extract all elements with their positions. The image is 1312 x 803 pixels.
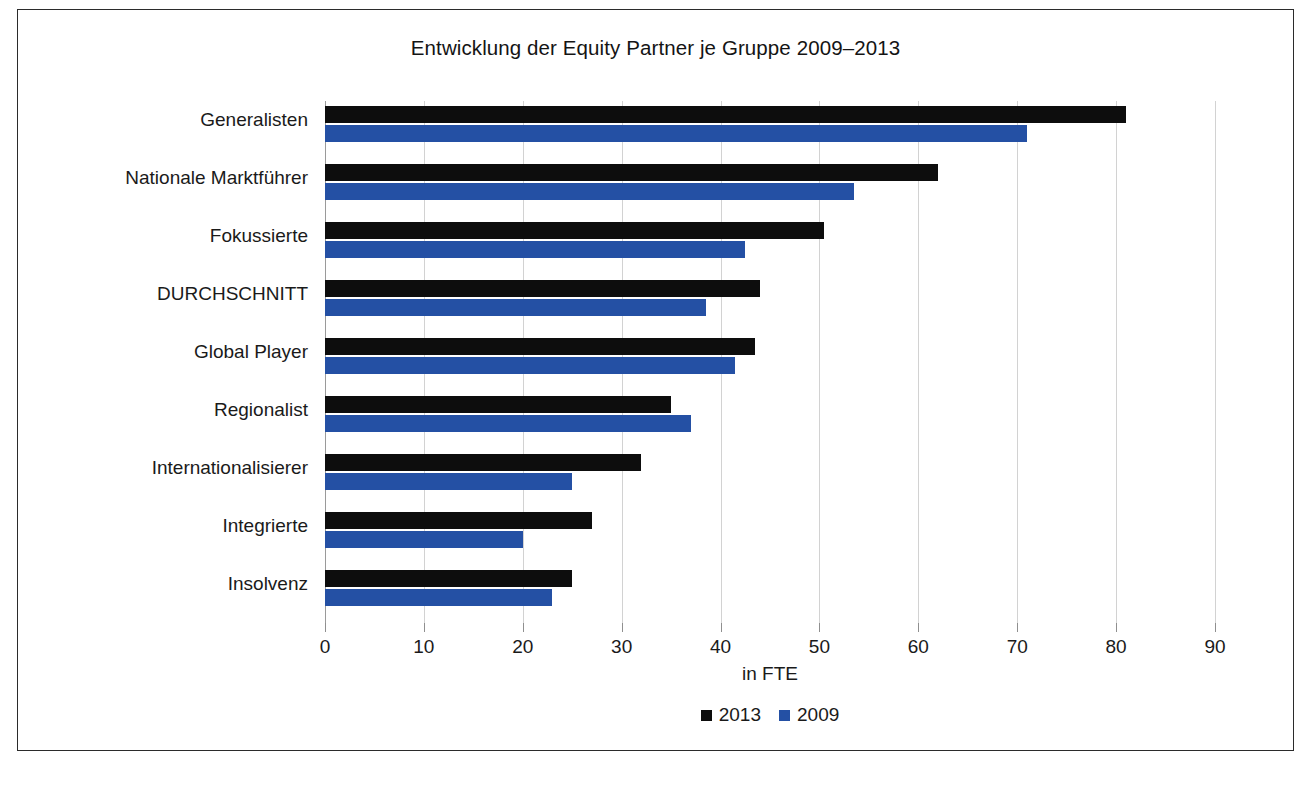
gridline-90	[1215, 101, 1216, 623]
tick-label-10: 10	[413, 636, 434, 658]
legend-item[interactable]: 2009	[779, 704, 839, 726]
bar-2013	[325, 512, 592, 529]
chart-legend: 20132009	[325, 704, 1215, 726]
category-label: Internationalisierer	[152, 457, 308, 479]
bar-2009	[325, 183, 854, 200]
bar-2009	[325, 241, 745, 258]
category-label: Global Player	[194, 341, 308, 363]
legend-swatch-icon	[701, 710, 712, 721]
x-axis-title: in FTE	[325, 663, 1215, 685]
bar-2009	[325, 299, 706, 316]
category-label: Fokussierte	[210, 225, 308, 247]
tick-label-30: 30	[611, 636, 632, 658]
category-row: Global Player	[325, 333, 1215, 391]
tick-label-20: 20	[512, 636, 533, 658]
category-row: DURCHSCHNITT	[325, 275, 1215, 333]
category-row: Regionalist	[325, 391, 1215, 449]
bar-2009	[325, 415, 691, 432]
tick-mark-10	[424, 623, 425, 632]
tick-label-80: 80	[1106, 636, 1127, 658]
tick-label-50: 50	[809, 636, 830, 658]
plot-area: 0102030405060708090 GeneralistenNational…	[325, 101, 1215, 623]
bar-2009	[325, 589, 552, 606]
tick-label-70: 70	[1007, 636, 1028, 658]
category-label: Nationale Marktführer	[125, 167, 308, 189]
tick-mark-30	[622, 623, 623, 632]
category-row: Fokussierte	[325, 217, 1215, 275]
category-row: Internationalisierer	[325, 449, 1215, 507]
category-row: Integrierte	[325, 507, 1215, 565]
category-label: Insolvenz	[228, 573, 308, 595]
chart-frame: Entwicklung der Equity Partner je Gruppe…	[17, 9, 1294, 751]
bar-2013	[325, 338, 755, 355]
category-label: Integrierte	[222, 515, 308, 537]
tick-mark-0	[325, 623, 326, 632]
category-label: Regionalist	[214, 399, 308, 421]
bar-2009	[325, 531, 523, 548]
legend-label: 2009	[797, 704, 839, 726]
tick-label-90: 90	[1204, 636, 1225, 658]
bar-2013	[325, 222, 824, 239]
bar-2013	[325, 396, 671, 413]
bar-2013	[325, 570, 572, 587]
category-row: Generalisten	[325, 101, 1215, 159]
bar-2013	[325, 106, 1126, 123]
category-row: Insolvenz	[325, 565, 1215, 623]
category-row: Nationale Marktführer	[325, 159, 1215, 217]
tick-mark-40	[721, 623, 722, 632]
tick-mark-60	[918, 623, 919, 632]
tick-label-40: 40	[710, 636, 731, 658]
chart-title: Entwicklung der Equity Partner je Gruppe…	[18, 36, 1293, 60]
bar-2009	[325, 125, 1027, 142]
tick-mark-50	[819, 623, 820, 632]
legend-swatch-icon	[779, 710, 790, 721]
bar-2009	[325, 357, 735, 374]
tick-label-60: 60	[908, 636, 929, 658]
tick-mark-20	[523, 623, 524, 632]
tick-mark-80	[1116, 623, 1117, 632]
tick-label-0: 0	[320, 636, 331, 658]
bar-2013	[325, 454, 641, 471]
tick-mark-90	[1215, 623, 1216, 632]
bar-2013	[325, 280, 760, 297]
bar-2009	[325, 473, 572, 490]
tick-mark-70	[1017, 623, 1018, 632]
legend-label: 2013	[719, 704, 761, 726]
category-label: Generalisten	[200, 109, 308, 131]
bar-2013	[325, 164, 938, 181]
legend-item[interactable]: 2013	[701, 704, 761, 726]
category-label: DURCHSCHNITT	[157, 283, 308, 305]
